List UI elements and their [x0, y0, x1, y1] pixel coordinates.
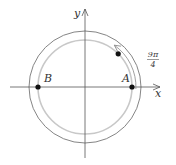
- unit-circle-diagram: y x A B 9π 4: [0, 0, 176, 165]
- point-b: [35, 84, 40, 89]
- rotation-label-numerator: 9π: [148, 50, 159, 59]
- rotation-label-denominator: 4: [149, 60, 155, 69]
- point-rotated: [116, 51, 121, 56]
- point-b-label: B: [43, 72, 52, 85]
- y-axis-label: y: [73, 7, 81, 20]
- diagram-canvas: y x A B 9π 4: [0, 0, 176, 165]
- point-a: [129, 84, 134, 89]
- point-a-label: A: [121, 72, 130, 85]
- x-axis-label: x: [155, 87, 162, 100]
